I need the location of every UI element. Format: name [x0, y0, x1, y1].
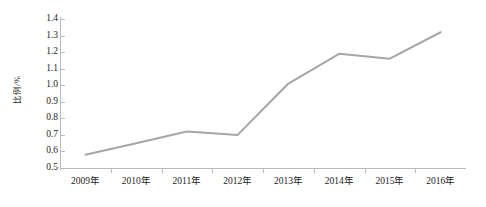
y-axis-tick-mark	[61, 36, 65, 37]
y-axis-tick-mark	[61, 135, 65, 136]
y-axis-tick-mark	[61, 19, 65, 20]
data-series-line	[85, 32, 440, 155]
x-axis-tick-mark	[162, 169, 163, 173]
y-axis-tick-mark	[61, 151, 65, 152]
x-axis-tick-mark	[111, 169, 112, 173]
x-axis-tick-mark	[415, 169, 416, 173]
x-axis-tick-mark	[263, 169, 264, 173]
x-axis-tick-mark	[212, 169, 213, 173]
y-axis-tick-mark	[61, 118, 65, 119]
x-axis-tick-label: 2016年	[411, 177, 471, 187]
y-axis-tick-mark	[61, 85, 65, 86]
line-chart: 比例/% 1.41.31.21.11.00.90.80.70.60.5 2009…	[0, 0, 486, 207]
y-axis-tick-mark	[61, 69, 65, 70]
y-axis-tick-mark	[61, 102, 65, 103]
y-axis-tick-mark	[61, 52, 65, 53]
x-axis-tick-mark	[365, 169, 366, 173]
x-axis-tick-mark	[314, 169, 315, 173]
